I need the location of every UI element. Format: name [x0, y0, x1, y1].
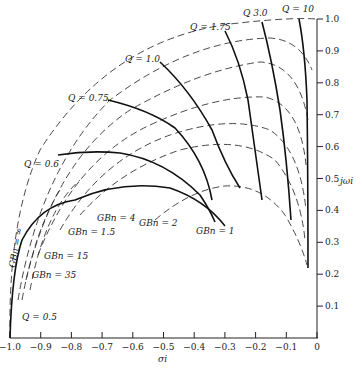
label-q-0-6: Q = 0.6	[24, 159, 59, 169]
x-tick-label: −0.1	[275, 342, 297, 352]
label-q-0-5: Q = 0.5	[22, 312, 57, 322]
y-tick-label: 0.1	[325, 301, 339, 311]
y-tick-label: 0.2	[325, 269, 339, 279]
label-gbn-15: GBn = 15	[44, 251, 89, 261]
y-tick-label: 0.9	[325, 46, 340, 56]
label-gbn-1-5: GBn = 1.5	[68, 227, 115, 237]
y-tick-label: 1.0	[325, 14, 340, 24]
x-tick-label: −0.9	[30, 342, 52, 352]
x-tick-label: −0.4	[183, 342, 205, 352]
x-tick-label: −0.8	[60, 342, 82, 352]
y-tick-label: 0.3	[325, 237, 340, 247]
x-tick-label: −1.0	[0, 342, 21, 352]
x-ticks: −1.0−0.9−0.8−0.7−0.6−0.5−0.4−0.3−0.2−0.1…	[0, 332, 320, 352]
q-0-75-curve	[108, 100, 212, 200]
y-tick-label: 0.5	[325, 174, 340, 184]
y-tick-label: 0.4	[325, 205, 340, 215]
q-3-0-curve	[262, 22, 291, 220]
gbn-1-5-curve	[80, 144, 305, 240]
q-1-75-curve	[225, 31, 262, 200]
x-tick-label: −0.5	[153, 342, 175, 352]
label-q-10: Q = 10	[282, 4, 314, 14]
q-0-6-curve	[58, 152, 215, 222]
label-q-3-0: Q 3.0	[243, 8, 268, 18]
y-tick-label: 0.8	[325, 78, 340, 88]
label-gbn-4: GBn = 4	[97, 213, 136, 223]
y-tick-label: 0.7	[325, 110, 340, 120]
x-tick-label: −0.3	[214, 342, 236, 352]
x-tick-label: 0	[314, 342, 320, 352]
x-tick-label: −0.7	[91, 342, 113, 352]
root-locus-diagram: −1.0−0.9−0.8−0.7−0.6−0.5−0.4−0.3−0.2−0.1…	[0, 0, 362, 368]
label-gbn-1: GBn = 1	[196, 226, 235, 236]
label-gbn-35: GBn = 35	[32, 270, 77, 280]
gbn-dashed-curves	[10, 19, 316, 338]
y-ticks: 0.10.20.30.40.50.60.70.80.91.0	[317, 14, 340, 311]
x-axis-label: σi	[158, 354, 167, 364]
label-q-1-0: Q = 1.0	[125, 54, 160, 64]
x-tick-label: −0.6	[122, 342, 144, 352]
q-10-curve	[299, 19, 308, 268]
label-gbn-2: GBn = 2	[139, 218, 178, 228]
y-axis-label: jωi	[338, 176, 353, 186]
label-q-1-75: Q = 1.75	[190, 22, 231, 32]
x-tick-label: −0.2	[245, 342, 267, 352]
label-q-0-75: Q = 0.75	[68, 93, 109, 103]
label-gbn-inf: GBn = ∞	[7, 227, 24, 268]
y-tick-label: 0.6	[325, 142, 340, 152]
